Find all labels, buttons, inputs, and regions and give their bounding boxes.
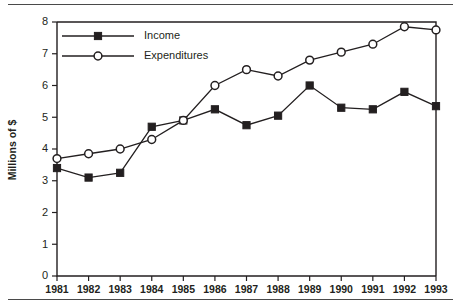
open-circle-marker [94,52,102,60]
filled-square-marker [306,82,313,89]
y-axis-tick-label: 3 [42,174,48,186]
filled-square-marker [369,106,376,113]
legend-label: Income [144,29,180,41]
open-circle-marker [85,150,93,158]
x-axis-tick-label: 1984 [140,283,164,295]
axis-frame [57,22,436,276]
y-axis-tick-group: 012345678 [42,15,57,281]
y-axis-tick-label: 5 [42,111,48,123]
y-axis-tick-label: 7 [42,47,48,59]
x-axis-tick-label: 1990 [330,283,354,295]
filled-square-marker [94,32,101,39]
y-axis-tick-label: 8 [42,15,48,27]
x-axis-tick-label: 1992 [393,283,417,295]
filled-square-marker [53,164,60,171]
series-line-expenditures [57,27,436,159]
legend-item-expenditures: Expenditures [62,49,209,61]
filled-square-marker [243,122,250,129]
open-circle-marker [274,72,282,80]
y-axis-tick-label: 2 [42,206,48,218]
x-axis-tick-label: 1989 [298,283,322,295]
open-circle-marker [116,145,124,153]
open-circle-marker [148,136,156,144]
x-axis-tick-group: 1981198219831984198519861987198819891990… [45,276,448,295]
x-axis-tick-label: 1983 [108,283,132,295]
open-circle-marker [401,23,409,31]
y-axis-title: Millions of $ [6,120,18,181]
filled-square-marker [401,88,408,95]
open-circle-marker [306,56,314,64]
x-axis-tick-label: 1993 [424,283,448,295]
x-axis-tick-label: 1985 [172,283,196,295]
y-axis-tick-label: 6 [42,79,48,91]
data-series-layer [53,23,440,181]
y-axis-tick-label: 1 [42,238,48,250]
chart-canvas: 012345678 198119821983198419851986198719… [0,0,461,306]
open-circle-marker [369,40,377,48]
y-axis-tick-label: 0 [42,269,48,281]
open-circle-marker [243,66,251,74]
x-axis-tick-label: 1982 [77,283,101,295]
open-circle-marker [179,117,187,125]
series-income [53,82,439,181]
filled-square-marker [117,169,124,176]
open-circle-marker [432,26,440,34]
x-axis-tick-label: 1988 [266,283,290,295]
y-axis-tick-label: 4 [42,142,48,154]
x-axis-tick-label: 1981 [45,283,69,295]
line-chart-figure: 012345678 198119821983198419851986198719… [0,0,461,306]
legend-item-income: Income [62,29,180,41]
series-expenditures [53,23,440,163]
x-axis-tick-label: 1987 [235,283,259,295]
filled-square-marker [85,174,92,181]
legend-label: Expenditures [144,49,209,61]
x-axis-tick-label: 1991 [361,283,385,295]
filled-square-marker [148,123,155,130]
series-line-income [57,86,436,178]
open-circle-marker [211,82,219,90]
open-circle-marker [337,48,345,56]
filled-square-marker [274,112,281,119]
open-circle-marker [53,155,61,163]
filled-square-marker [432,103,439,110]
filled-square-marker [338,104,345,111]
x-axis-tick-label: 1986 [203,283,227,295]
filled-square-marker [211,106,218,113]
chart-legend: IncomeExpenditures [62,29,209,61]
